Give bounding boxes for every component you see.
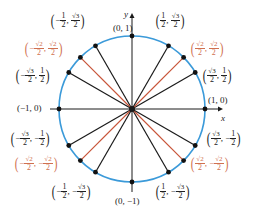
label-neg1-0: (−1, 0) xyxy=(17,104,42,113)
label-300deg: (12, −√32) xyxy=(155,183,191,200)
unit-circle-diagram: x y (0, 1) (1, 0) (−1, 0) (0, −1) (12, √… xyxy=(0,0,255,215)
x-axis-arrow-icon xyxy=(218,107,223,112)
point-120 xyxy=(93,43,98,48)
point-0 xyxy=(203,107,208,112)
label-60deg: (12, √32) xyxy=(155,12,186,29)
point-270 xyxy=(130,180,135,185)
point-135 xyxy=(78,55,83,60)
origin-point xyxy=(129,106,135,112)
point-330 xyxy=(193,143,198,148)
label-120deg: (−12, √32) xyxy=(50,12,86,29)
label-150deg: (−√32, 12) xyxy=(15,67,51,84)
label-1-0: (1, 0) xyxy=(208,96,228,105)
point-90 xyxy=(130,34,135,39)
x-axis-label: x xyxy=(220,113,225,123)
point-180 xyxy=(57,107,62,112)
point-30 xyxy=(193,70,198,75)
point-315 xyxy=(181,158,186,163)
label-225deg: (−√22, −√22) xyxy=(14,155,58,172)
point-150 xyxy=(66,70,71,75)
label-0-neg1: (0, −1) xyxy=(115,197,140,206)
label-240deg: (−12, −√32) xyxy=(51,183,92,200)
label-330deg: (√32, −12) xyxy=(206,130,242,147)
point-45 xyxy=(181,55,186,60)
label-315deg: (√22, −√22) xyxy=(190,155,229,172)
point-300 xyxy=(166,170,171,175)
label-45deg: (√22, √22) xyxy=(190,40,224,57)
label-30deg: (√32, 12) xyxy=(202,67,233,84)
point-210 xyxy=(66,143,71,148)
y-axis-arrow-icon xyxy=(130,13,135,18)
label-0-1: (0, 1) xyxy=(113,24,133,33)
label-210deg: (−√32, −12) xyxy=(10,130,51,147)
point-60 xyxy=(166,43,171,48)
y-axis-label: y xyxy=(123,9,128,19)
point-225 xyxy=(78,158,83,163)
point-240 xyxy=(93,170,98,175)
label-135deg: (−√22, √22) xyxy=(24,40,63,57)
